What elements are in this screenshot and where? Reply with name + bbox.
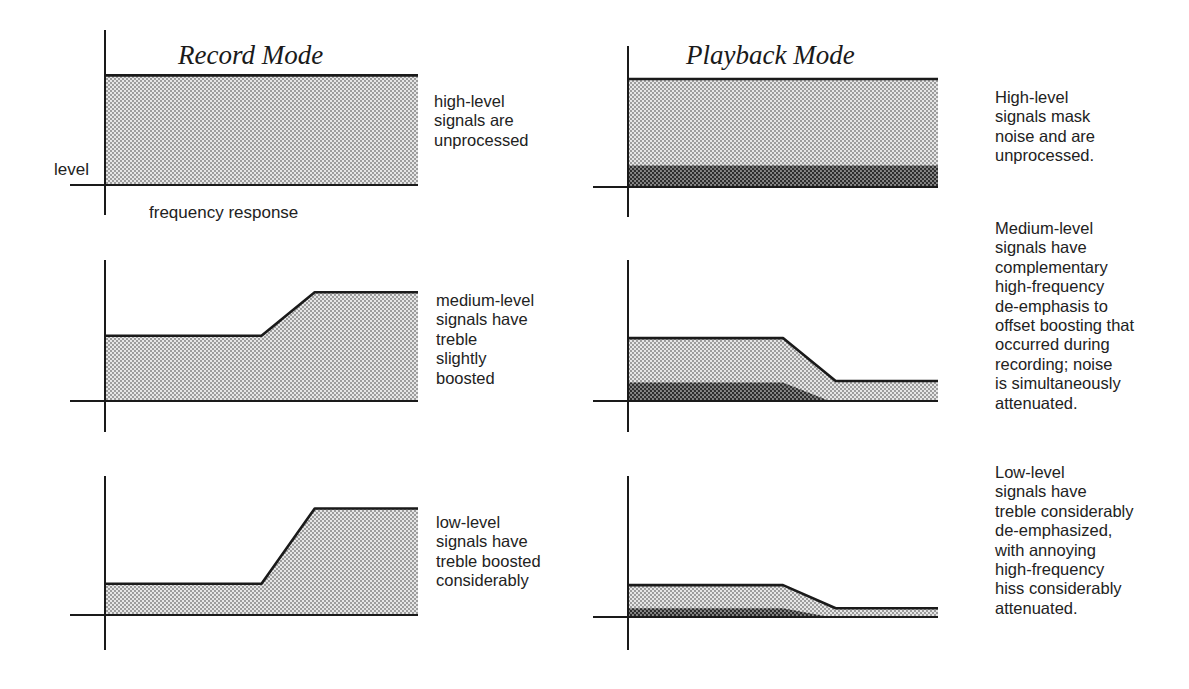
signal-area [105,292,418,401]
level-axis-label: level [54,160,89,180]
record-low-caption: low-level signals have treble boosted co… [436,513,541,591]
playback-high-caption: High-level signals mask noise and are un… [995,88,1095,166]
signal-area [105,75,418,185]
record-medium-caption: medium-level signals have treble slightl… [436,291,534,388]
panel-rec-med [70,260,418,432]
signal-area [105,509,418,616]
record-mode-title: Record Mode [178,40,323,71]
playback-low-caption: Low-level signals have treble considerab… [995,463,1134,618]
playback-mode-title: Playback Mode [686,40,855,71]
noise-area [628,165,938,187]
panel-pb-med [593,260,938,432]
record-high-caption: high-level signals are unprocessed [434,92,528,150]
panel-pb-high [593,46,938,217]
panel-rec-low [70,476,418,650]
frequency-axis-label: frequency response [149,203,298,223]
panel-pb-low [593,476,938,650]
playback-medium-caption: Medium-level signals have complementary … [995,219,1134,413]
